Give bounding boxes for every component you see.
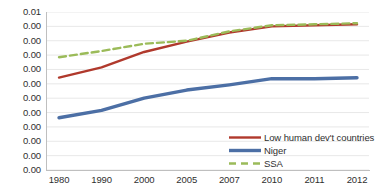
y-tick-label: 0.00 xyxy=(1,108,41,118)
y-tick-label: 0.00 xyxy=(1,50,41,60)
x-axis: 19801990200020052007201020112012 xyxy=(0,174,379,190)
y-tick-label: 0.00 xyxy=(1,64,41,74)
x-tick-label: 2007 xyxy=(219,174,240,185)
y-tick-label: 0.00 xyxy=(1,151,41,161)
x-tick-label: 2012 xyxy=(347,174,368,185)
chart-legend: Low human dev't countriesNigerSSA xyxy=(228,131,378,170)
x-tick-label: 1990 xyxy=(91,174,112,185)
y-tick-label: 0.00 xyxy=(1,122,41,132)
y-tick-label: 0.00 xyxy=(1,36,41,46)
x-axis-line xyxy=(46,170,370,171)
x-tick-label: 2010 xyxy=(261,174,282,185)
legend-swatch-icon xyxy=(228,157,262,170)
x-tick-label: 2005 xyxy=(176,174,197,185)
y-tick-label: 0.01 xyxy=(1,7,41,17)
x-tick-label: 1980 xyxy=(49,174,70,185)
x-tick-label: 2011 xyxy=(304,174,324,185)
y-tick-label: 0.00 xyxy=(1,136,41,146)
legend-item[interactable]: Niger xyxy=(228,144,378,157)
x-tick-label: 2000 xyxy=(134,174,155,185)
y-tick-label: 0.00 xyxy=(1,79,41,89)
legend-swatch-icon xyxy=(228,144,262,157)
legend-item[interactable]: Low human dev't countries xyxy=(228,131,378,144)
y-tick-label: 0.00 xyxy=(1,93,41,103)
legend-label: Low human dev't countries xyxy=(262,132,374,143)
series-line xyxy=(59,23,357,57)
y-tick-label: 0.00 xyxy=(1,21,41,31)
legend-label: SSA xyxy=(262,158,283,169)
y-axis: 0.010.000.000.000.000.000.000.000.000.00… xyxy=(0,0,44,194)
legend-swatch-icon xyxy=(228,131,262,144)
line-chart: 0.010.000.000.000.000.000.000.000.000.00… xyxy=(0,0,379,194)
legend-label: Niger xyxy=(262,145,286,156)
legend-item[interactable]: SSA xyxy=(228,157,378,170)
